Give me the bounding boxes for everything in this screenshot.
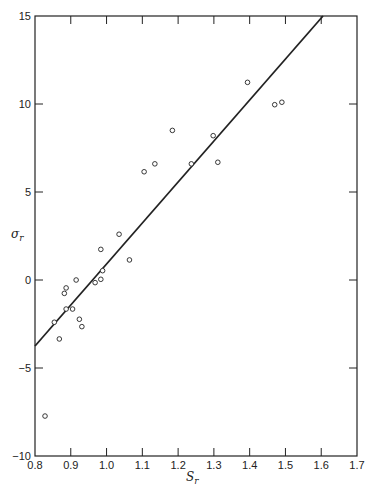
x-tick-label: 1.2 — [170, 459, 185, 471]
y-tick-label: −5 — [18, 362, 31, 374]
data-point-marker — [245, 80, 250, 85]
data-point-marker — [189, 162, 194, 167]
y-tick-label: 0 — [25, 274, 31, 286]
plot-border — [35, 16, 357, 456]
data-point-marker — [211, 133, 216, 138]
data-point-marker — [52, 320, 57, 325]
data-points — [43, 80, 284, 418]
data-point-marker — [43, 414, 48, 419]
y-tick-label: 10 — [19, 98, 31, 110]
data-point-marker — [142, 169, 147, 174]
x-axis-label: Sr — [186, 470, 199, 486]
regression-line — [35, 16, 323, 346]
x-axis-ticks: 0.80.91.01.11.21.31.41.51.61.7 — [27, 16, 364, 471]
data-point-marker — [62, 291, 67, 296]
x-tick-label: 1.6 — [314, 459, 329, 471]
x-tick-label: 1.0 — [99, 459, 114, 471]
data-point-marker — [77, 317, 82, 322]
data-point-marker — [127, 258, 132, 263]
data-point-marker — [93, 280, 98, 285]
data-point-marker — [216, 160, 221, 165]
data-point-marker — [99, 277, 104, 282]
data-point-marker — [74, 278, 79, 283]
data-point-marker — [57, 337, 62, 342]
x-tick-label: 0.9 — [63, 459, 78, 471]
data-point-marker — [272, 102, 277, 107]
y-tick-label: −10 — [12, 450, 31, 462]
data-point-marker — [64, 307, 69, 312]
y-tick-label: 15 — [19, 10, 31, 22]
x-tick-label: 1.5 — [278, 459, 293, 471]
data-point-marker — [70, 307, 75, 312]
x-tick-label: 1.4 — [242, 459, 257, 471]
x-tick-label: 1.3 — [206, 459, 221, 471]
scatter-chart: 0.80.91.01.11.21.31.41.51.61.7 −10−50510… — [0, 0, 374, 486]
y-axis-ticks: −10−5051015 — [12, 10, 357, 462]
plot-frame — [35, 16, 357, 456]
x-tick-label: 1.1 — [135, 459, 150, 471]
data-point-marker — [153, 162, 158, 167]
data-point-marker — [64, 286, 69, 291]
data-point-marker — [117, 232, 122, 237]
data-point-marker — [280, 100, 285, 105]
x-tick-label: 1.7 — [349, 459, 364, 471]
y-tick-label: 5 — [25, 186, 31, 198]
data-point-marker — [99, 247, 104, 252]
data-point-marker — [100, 268, 105, 273]
data-point-marker — [80, 324, 85, 329]
data-point-marker — [170, 128, 175, 133]
y-axis-label: σr — [11, 227, 24, 243]
fit-line-path — [35, 16, 323, 346]
